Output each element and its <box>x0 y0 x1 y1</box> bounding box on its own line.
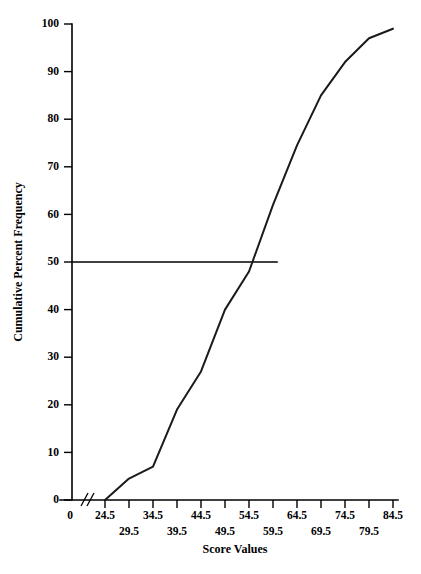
y-tick-label: 50 <box>48 255 60 267</box>
y-tick-label: 100 <box>42 17 60 29</box>
x-tick-label: 24.5 <box>95 509 115 521</box>
x-axis-title: Score Values <box>203 542 268 556</box>
y-tick-label: 20 <box>48 398 60 410</box>
x-tick-label: 29.5 <box>119 525 139 537</box>
x-tick-label: 79.5 <box>359 525 379 537</box>
x-tick-label: 54.5 <box>239 509 259 521</box>
x-tick-marks <box>105 500 393 508</box>
x-tick-label: 59.5 <box>263 525 283 537</box>
x-tick-label: 84.5 <box>383 509 403 521</box>
y-tick-marks <box>64 24 72 500</box>
x-tick-labels: 024.529.534.539.544.549.554.559.564.569.… <box>67 509 403 537</box>
cumulative-frequency-curve <box>105 29 393 500</box>
chart-canvas: 0102030405060708090100 024.529.534.539.5… <box>0 0 421 574</box>
x-tick-label: 64.5 <box>287 509 307 521</box>
y-tick-label: 90 <box>48 65 60 77</box>
x-tick-label: 49.5 <box>215 525 235 537</box>
x-tick-label: 34.5 <box>143 509 163 521</box>
cumulative-frequency-chart: 0102030405060708090100 024.529.534.539.5… <box>0 0 421 574</box>
y-tick-label: 80 <box>48 112 60 124</box>
x-tick-label: 0 <box>67 509 73 521</box>
x-tick-label: 39.5 <box>167 525 187 537</box>
y-tick-labels: 0102030405060708090100 <box>42 17 60 505</box>
x-tick-label: 44.5 <box>191 509 211 521</box>
y-axis-group: 0102030405060708090100 <box>42 17 72 505</box>
y-tick-label: 60 <box>48 208 60 220</box>
y-tick-label: 0 <box>53 493 59 505</box>
x-axis-group: 024.529.534.539.544.549.554.559.564.569.… <box>60 500 403 537</box>
x-tick-label: 74.5 <box>335 509 355 521</box>
x-tick-label: 69.5 <box>311 525 331 537</box>
y-tick-label: 10 <box>48 446 60 458</box>
y-tick-label: 40 <box>48 303 60 315</box>
y-tick-label: 30 <box>48 350 60 362</box>
y-axis-title: Cumulative Percent Frequency <box>11 182 25 342</box>
y-tick-label: 70 <box>48 160 60 172</box>
